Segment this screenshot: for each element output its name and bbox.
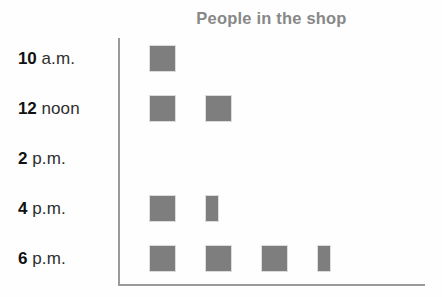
row-label-number: 6	[18, 249, 27, 269]
chart-row: 4p.m.	[0, 184, 442, 234]
pictogram-chart: People in the shop 10a.m.12noon2p.m.4p.m…	[0, 0, 442, 297]
row-label-6-p-m-: 6p.m.	[18, 234, 66, 284]
chart-title: People in the shop	[118, 9, 425, 28]
row-label-suffix: p.m.	[32, 249, 65, 269]
row-label-suffix: noon	[42, 99, 80, 119]
chart-row: 12noon	[0, 84, 442, 134]
pictogram-half-square	[317, 245, 331, 272]
row-label-10-a-m-: 10a.m.	[18, 34, 75, 84]
x-axis-line	[118, 284, 425, 286]
row-label-suffix: a.m.	[42, 49, 75, 69]
row-label-2-p-m-: 2p.m.	[18, 134, 66, 184]
row-symbols	[118, 134, 425, 184]
chart-row: 2p.m.	[0, 134, 442, 184]
chart-row: 10a.m.	[0, 34, 442, 84]
row-symbols	[118, 84, 425, 134]
row-label-number: 12	[18, 99, 37, 119]
row-label-4-p-m-: 4p.m.	[18, 184, 66, 234]
pictogram-square	[261, 245, 288, 272]
row-label-12-noon: 12noon	[18, 84, 80, 134]
row-label-suffix: p.m.	[32, 199, 65, 219]
row-symbols	[118, 34, 425, 84]
row-label-number: 10	[18, 49, 37, 69]
row-symbols	[118, 234, 425, 284]
pictogram-square	[205, 245, 232, 272]
pictogram-square	[149, 195, 176, 222]
pictogram-square	[149, 245, 176, 272]
row-label-suffix: p.m.	[32, 149, 65, 169]
pictogram-square	[205, 95, 232, 122]
pictogram-square	[149, 45, 176, 72]
row-label-number: 4	[18, 199, 27, 219]
chart-row: 6p.m.	[0, 234, 442, 284]
pictogram-square	[149, 95, 176, 122]
row-symbols	[118, 184, 425, 234]
row-label-number: 2	[18, 149, 27, 169]
pictogram-half-square	[205, 195, 219, 222]
